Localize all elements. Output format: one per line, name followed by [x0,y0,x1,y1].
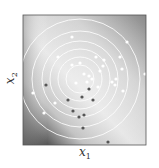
data-point [125,40,128,43]
data-point [44,83,47,86]
data-point [106,140,109,143]
data-point [101,64,104,67]
data-point [53,101,56,104]
data-point [78,61,81,64]
data-point [110,80,113,83]
data-point [87,74,90,77]
data-point [87,87,90,90]
data-point [121,89,124,92]
data-point [42,111,45,114]
data-point [56,55,59,58]
data-point [118,55,121,58]
data-point [74,81,77,84]
data-point [66,98,69,101]
data-point [98,69,101,72]
data-point [85,80,88,83]
data-point [91,98,94,101]
data-point [90,77,93,80]
data-point [113,83,116,86]
scatter-plot [0,0,159,168]
data-point [70,35,73,38]
data-point [77,115,80,118]
data-point [114,77,117,80]
data-point [82,113,85,116]
data-point [96,85,99,88]
data-point [81,126,84,129]
data-point [82,72,85,75]
x-axis-label: x1 [79,145,91,161]
data-point [120,67,123,70]
data-point [71,109,74,112]
data-point [94,55,97,58]
data-point [31,91,34,94]
data-point [102,58,105,61]
y-axis-label: x2 [3,72,19,84]
data-point [70,63,73,66]
data-point [80,95,83,98]
